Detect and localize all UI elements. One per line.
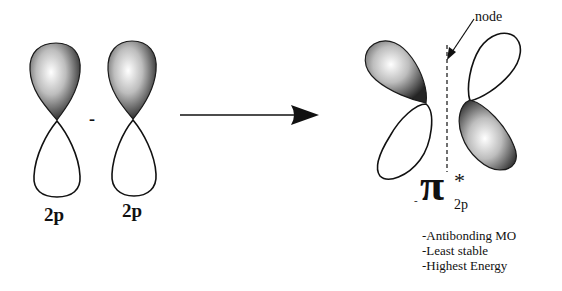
reaction-arrow (180, 105, 319, 125)
mo-prefix: - (414, 194, 418, 206)
mo-subscript: 2p (454, 198, 468, 212)
shaded-lobe (365, 41, 426, 103)
property-item: -Antibonding MO (422, 228, 516, 243)
pi-symbol: π (420, 164, 444, 208)
property-item: -Least stable (422, 243, 516, 258)
unshaded-lobe (34, 121, 80, 197)
unshaded-lobe (112, 120, 156, 196)
orbital-label-2: 2p (122, 200, 142, 222)
property-item: -Highest Energy (422, 258, 516, 273)
shaded-lobe (108, 41, 156, 119)
shaded-lobe (459, 100, 516, 170)
antibonding-orbital-left (365, 41, 431, 179)
node-label: node (475, 9, 502, 25)
p-orbital-left-1 (30, 43, 80, 197)
p-orbital-left-2 (108, 41, 156, 196)
antibonding-star: * (454, 170, 465, 192)
unshaded-lobe (468, 33, 520, 101)
orbital-label-1: 2p (44, 204, 64, 226)
node-pointer-arrow (447, 19, 474, 60)
mo-symbol: - π * 2p (414, 170, 494, 220)
minus-operator: - (89, 109, 95, 130)
shaded-lobe (30, 43, 80, 120)
antibonding-orbital-right (459, 33, 520, 170)
mo-properties-list: -Antibonding MO -Least stable -Highest E… (422, 228, 516, 273)
